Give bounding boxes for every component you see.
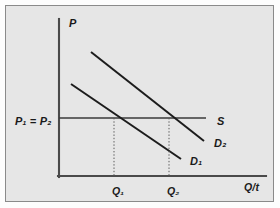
price-equilibrium-label: P₁ = P₂: [15, 116, 52, 127]
supply-curve-label: S: [217, 116, 225, 127]
x-axis-label: Q/t: [244, 182, 259, 193]
demand-curve-D2: [91, 52, 204, 141]
figure-root: P Q/t P₁ = P₂ S D₁ D₂ Q₁ Q₂: [0, 0, 280, 208]
quantity-tick-label-q2: Q₂: [167, 186, 180, 197]
figure-frame: P Q/t P₁ = P₂ S D₁ D₂ Q₁ Q₂: [5, 5, 274, 202]
quantity-tick-label-q1: Q₁: [112, 186, 124, 197]
demand-curve-label-d1: D₁: [190, 156, 202, 167]
y-axis-label: P: [69, 18, 77, 29]
demand-curve-D1: [71, 84, 181, 159]
demand-curve-label-d2: D₂: [214, 138, 227, 149]
supply-demand-plot: [6, 6, 272, 200]
